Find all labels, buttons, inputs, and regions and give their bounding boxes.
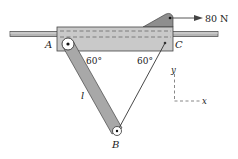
label-axis-x: x [202, 96, 207, 106]
mechanics-diagram: A C B l 60° 60° 80 N y x [0, 0, 238, 159]
label-length: l [81, 90, 84, 101]
label-b: B [111, 139, 119, 150]
label-axis-y: y [170, 65, 176, 75]
bar-ab [63, 41, 122, 134]
pin-b [113, 127, 122, 136]
label-a: A [44, 39, 52, 50]
label-c: C [175, 39, 183, 50]
pin-c [164, 42, 167, 45]
coordinate-axes [175, 74, 202, 101]
bracket [143, 13, 173, 27]
force-arrow [171, 15, 203, 21]
pin-a [62, 38, 74, 50]
bracket-pin [169, 17, 172, 20]
label-angle-right: 60° [137, 56, 153, 66]
label-angle-left: 60° [86, 56, 102, 66]
label-force: 80 N [205, 13, 228, 24]
